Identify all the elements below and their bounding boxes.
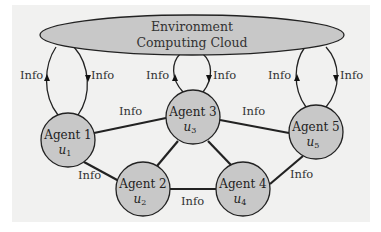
agent-node-5: Agent 5 u5 <box>289 105 343 159</box>
label-edge-1-2: Info <box>78 168 101 182</box>
label-edge-4-5: Info <box>290 167 313 181</box>
arrow-down-icon <box>206 75 212 82</box>
cloud-label-line1: Environment <box>151 19 233 34</box>
agent-node-3: Agent 3 u3 <box>166 90 220 144</box>
agent-node-1: Agent 1 u1 <box>41 113 95 167</box>
agent-node-2: Agent 2 u2 <box>116 162 170 216</box>
label-edge-2-4: Info <box>181 194 204 208</box>
label-agent1-down: Info <box>91 68 114 82</box>
label-agent3-down: Info <box>213 68 236 82</box>
agent-node-4: Agent 4 u4 <box>216 162 270 216</box>
diagram-canvas: Environment Computing Cloud Info Info In… <box>0 0 381 232</box>
label-edge-1-3: Info <box>119 104 142 118</box>
agent-4-name: Agent 4 <box>218 177 267 191</box>
environment-cloud: Environment Computing Cloud <box>40 15 344 55</box>
link-agent3-down <box>203 54 211 92</box>
edge-3-4 <box>208 141 231 165</box>
agent-5-name: Agent 5 <box>291 120 339 134</box>
edge-2-3 <box>157 141 178 166</box>
label-edge-3-5: Info <box>242 104 265 118</box>
label-agent3-up: Info <box>146 68 169 82</box>
label-agent5-up: Info <box>268 68 291 82</box>
link-agent3-up <box>174 54 183 92</box>
label-agent5-down: Info <box>340 68 363 82</box>
link-agent1-down <box>74 47 87 115</box>
cloud-label-line2: Computing Cloud <box>136 35 247 50</box>
arrow-up-icon <box>294 74 300 81</box>
agent-2-name: Agent 2 <box>118 177 166 191</box>
agent-1-name: Agent 1 <box>43 128 91 142</box>
agent-3-name: Agent 3 <box>168 105 216 119</box>
label-agent1-up: Info <box>20 68 43 82</box>
arrow-up-icon <box>44 74 50 81</box>
edge-3-5 <box>220 120 289 133</box>
cloud-link-labels: Info Info Info Info Info Info <box>20 68 363 82</box>
arrow-down-icon <box>333 75 339 82</box>
edge-1-3 <box>94 118 166 133</box>
arrowheads <box>44 74 339 82</box>
arrow-up-icon <box>172 74 178 81</box>
